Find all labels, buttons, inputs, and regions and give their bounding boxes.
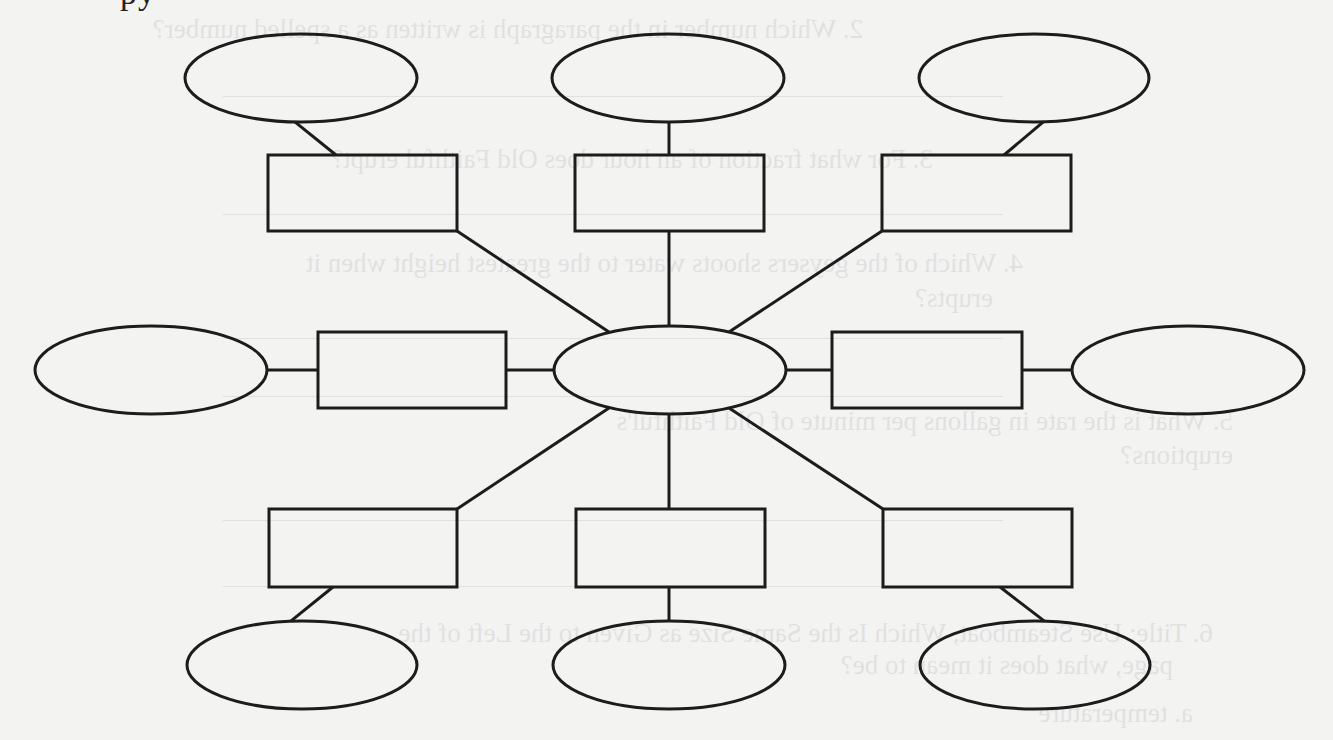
oval-bottom-left (187, 621, 417, 709)
box-middle-left (318, 332, 506, 408)
oval-bottom-right (920, 621, 1150, 709)
connector-center-to-top-left (457, 231, 609, 332)
oval-middle-right (1072, 326, 1304, 414)
box-bottom-right (883, 509, 1072, 587)
worksheet-page: 2. Which number in the paragraph is writ… (0, 0, 1333, 740)
box-bottom-left (269, 509, 457, 587)
connector-center-to-bottom-right (729, 408, 883, 509)
rectangle-boxes (268, 155, 1072, 587)
box-top-left (268, 155, 457, 231)
connector-box-to-oval-top-right (1004, 122, 1043, 155)
oval-top-right (919, 34, 1149, 122)
connector-box-to-oval-top-left (295, 122, 336, 155)
connector-center-to-bottom-left (457, 408, 609, 509)
oval-bottom-center (553, 621, 785, 709)
connector-lines (267, 122, 1072, 621)
oval-middle-left (35, 326, 267, 414)
oval-top-left (185, 34, 417, 122)
box-top-center (575, 155, 764, 231)
oval-top-center (552, 34, 784, 122)
box-top-right (882, 155, 1071, 231)
center-oval (554, 326, 786, 414)
box-bottom-center (576, 509, 765, 587)
concept-web-diagram (0, 0, 1333, 740)
connector-box-to-oval-bottom-left (291, 587, 333, 621)
connector-center-to-top-right (729, 231, 882, 332)
connector-box-to-oval-bottom-right (1000, 587, 1044, 621)
box-middle-right (832, 332, 1022, 408)
